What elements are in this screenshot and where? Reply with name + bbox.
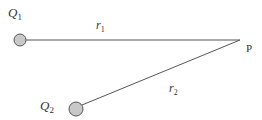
point-p-label: P xyxy=(246,42,252,54)
distance-r2-label: r2 xyxy=(169,81,178,97)
distance-line-r2 xyxy=(82,40,240,105)
diagram-canvas: Q1 Q2 r1 r2 P xyxy=(0,0,262,120)
charge-q1-label: Q1 xyxy=(8,5,22,22)
distance-r1-label: r1 xyxy=(96,18,105,34)
charge-q2-label: Q2 xyxy=(40,98,54,115)
charge-q2 xyxy=(69,102,83,116)
charge-q1 xyxy=(14,34,26,46)
